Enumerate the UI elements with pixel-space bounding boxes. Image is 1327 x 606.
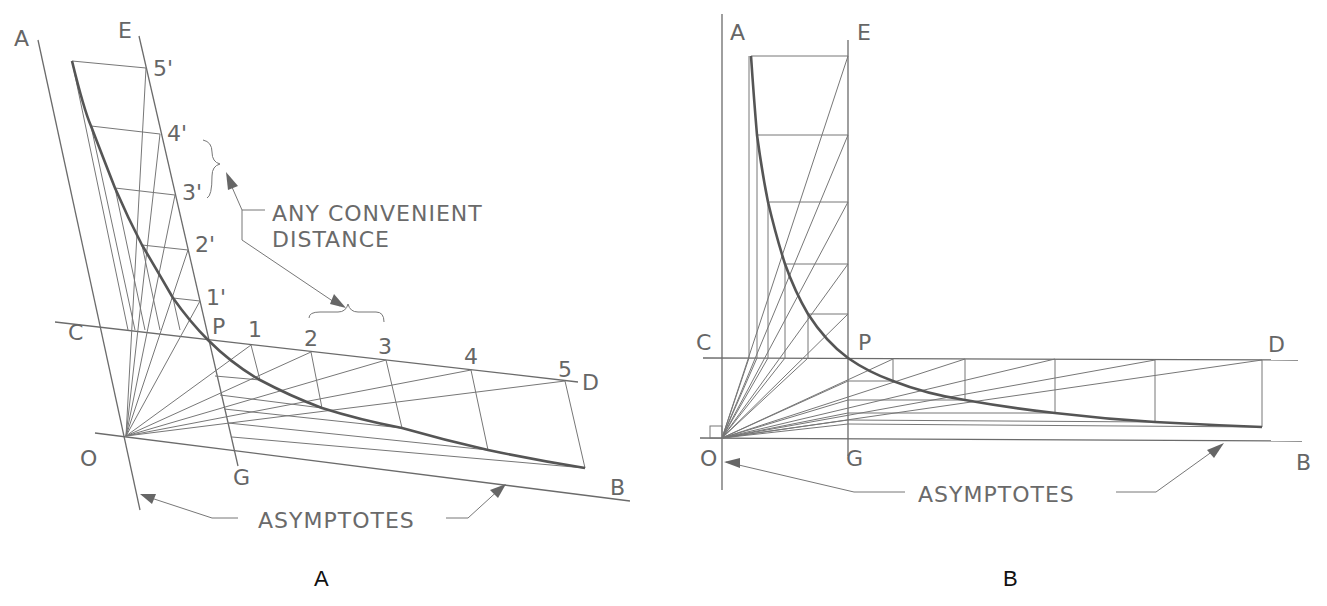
label-b-b: B	[1296, 450, 1311, 475]
panel-a-diagram: A E C P D O G B 5' 4' 3' 2' 1' 1 2 3 4 5…	[14, 18, 630, 591]
asymptotes-label-a: ASYMPTOTES	[258, 508, 415, 533]
arrow-right-icon-b	[1207, 443, 1224, 458]
inner-construction-lines	[72, 61, 585, 468]
asymptote-oa-line	[38, 40, 140, 510]
caption-a: A	[314, 566, 329, 591]
label-1-prime: 1'	[206, 285, 226, 310]
label-4-prime: 4'	[167, 121, 187, 146]
asymptote-ob-line-b	[700, 438, 1302, 441]
asymptotes-label-b: ASYMPTOTES	[918, 482, 1075, 507]
asymptotes-leader-left	[142, 495, 238, 518]
label-4: 4	[464, 344, 478, 369]
label-c-b: C	[696, 330, 711, 355]
line-eg	[139, 36, 238, 466]
label-d-b: D	[1268, 332, 1285, 357]
rays-from-o-to-eg-b	[722, 56, 848, 438]
label-2-prime: 2'	[195, 232, 215, 257]
panel-b-diagram: A E C P D O G B ASYMPTOTES B	[696, 14, 1311, 591]
eg-division-verticals-b	[749, 56, 808, 358]
label-a: A	[14, 26, 29, 51]
label-c: C	[68, 320, 83, 345]
label-b: B	[610, 475, 625, 500]
arrow-down-icon	[330, 294, 346, 308]
caption-b: B	[1003, 566, 1018, 591]
label-p: P	[212, 314, 225, 339]
label-g: G	[233, 465, 250, 490]
brace-3-4-prime	[203, 140, 220, 198]
arrow-left-icon	[140, 494, 156, 504]
label-5-prime: 5'	[153, 56, 173, 81]
arrow-up-icon	[226, 172, 238, 190]
label-p-b: P	[858, 330, 871, 355]
label-o-b: O	[700, 446, 717, 471]
label-3-prime: 3'	[182, 180, 202, 205]
line-cd-b	[703, 358, 1298, 360]
convenient-distance-line1: ANY CONVENIENT	[272, 201, 483, 226]
hyperbola-construction-figure: A E C P D O G B 5' 4' 3' 2' 1' 1 2 3 4 5…	[0, 0, 1327, 606]
hyperbola-curve-a	[72, 61, 585, 468]
convenient-distance-line2: DISTANCE	[272, 227, 390, 252]
brace-2-3	[309, 304, 384, 322]
label-g-b: G	[846, 446, 863, 471]
asymptotes-leader-left-b	[726, 462, 905, 492]
label-5: 5	[558, 357, 572, 382]
arrow-left-icon-b	[724, 458, 740, 468]
asymptotes-leader-right-b	[1116, 446, 1220, 492]
label-1: 1	[248, 317, 262, 342]
label-3: 3	[378, 334, 392, 359]
label-o: O	[80, 446, 97, 471]
label-d: D	[582, 370, 599, 395]
right-angle-marker	[710, 426, 722, 438]
label-a-b: A	[730, 20, 745, 45]
label-e-b: E	[857, 20, 871, 45]
label-2: 2	[304, 326, 318, 351]
asymptote-ob-line	[95, 433, 630, 501]
label-e: E	[118, 18, 132, 43]
eg-division-parallels	[72, 61, 200, 301]
